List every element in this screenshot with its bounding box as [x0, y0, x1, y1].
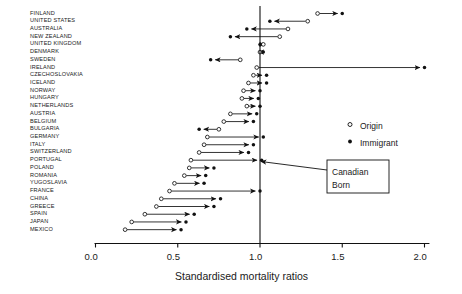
category-label: YUGOSLAVIA	[30, 180, 67, 186]
category-label: BULGARIA	[30, 126, 60, 132]
x-tick-label-2: 1.0	[249, 251, 262, 262]
origin-marker	[217, 127, 221, 131]
category-label: NETHERLANDS	[30, 103, 73, 109]
data-row	[155, 205, 216, 209]
category-label: BELGIUM	[30, 119, 56, 125]
immigrant-marker	[212, 166, 216, 170]
immigrant-marker	[268, 19, 272, 23]
origin-marker	[255, 66, 259, 70]
category-label: SPAIN	[30, 211, 47, 217]
data-row	[202, 143, 255, 147]
immigrant-marker	[209, 58, 213, 62]
origin-marker	[189, 158, 193, 162]
category-label: UNITED KINGDOM	[30, 41, 81, 47]
data-row	[130, 220, 188, 224]
category-label: NEW ZEALAND	[30, 34, 72, 40]
immigrant-marker	[247, 151, 251, 155]
data-row	[173, 181, 206, 185]
data-row	[245, 27, 290, 31]
x-tick-label-4: 2.0	[414, 251, 427, 262]
origin-marker	[206, 135, 210, 139]
origin-marker	[182, 174, 186, 178]
origin-marker	[123, 228, 127, 232]
origin-marker	[229, 112, 233, 116]
immigrant-marker	[255, 112, 259, 116]
origin-marker	[245, 104, 249, 108]
data-row	[247, 81, 269, 85]
category-label: SWITZERLAND	[30, 149, 72, 155]
x-tick-label-3: 1.5	[331, 251, 344, 262]
category-label: MEXICO	[30, 227, 53, 233]
category-label: ROMANIA	[30, 173, 57, 179]
annotation-line-2: Born	[332, 180, 350, 190]
annotation-layer	[261, 123, 389, 194]
data-row	[209, 58, 242, 62]
data-row	[197, 151, 250, 155]
x-axis-title: Standardised mortality ratios	[175, 270, 308, 282]
category-label: CZECHOSLOVAKIA	[30, 72, 83, 78]
immigrant-marker	[197, 128, 201, 132]
immigrant-marker	[265, 81, 269, 85]
category-label: GREECE	[30, 204, 55, 210]
origin-marker	[187, 166, 191, 170]
origin-marker	[143, 212, 147, 216]
data-row	[245, 104, 262, 108]
origin-marker	[168, 189, 172, 193]
category-label: IRELAND	[30, 65, 55, 71]
origin-marker	[261, 43, 265, 47]
origin-marker	[159, 197, 163, 201]
category-label: SWEDEN	[30, 57, 55, 63]
data-row	[197, 127, 220, 131]
category-label: POLAND	[30, 165, 54, 171]
immigrant-marker	[202, 182, 206, 186]
origin-marker	[286, 27, 290, 31]
category-label: HUNGARY	[30, 95, 59, 101]
immigrant-marker	[423, 66, 427, 70]
data-row	[187, 166, 215, 170]
data-row	[222, 120, 255, 124]
category-label: CHINA	[30, 196, 48, 202]
category-label: AUSTRIA	[30, 111, 55, 117]
immigrant-marker	[229, 35, 233, 39]
data-row	[229, 112, 259, 116]
category-label: NORWAY	[30, 88, 55, 94]
origin-marker	[252, 73, 256, 77]
data-row	[123, 228, 183, 232]
legend-label-immigrant: Immigrant	[360, 138, 398, 148]
origin-marker	[197, 151, 201, 155]
immigrant-marker	[192, 212, 196, 216]
data-row	[258, 50, 265, 54]
origin-marker	[242, 89, 246, 93]
immigrant-marker	[252, 143, 256, 147]
origin-marker	[155, 205, 159, 209]
origin-marker	[240, 97, 244, 101]
category-label: PORTUGAL	[30, 157, 62, 163]
data-row	[159, 197, 222, 201]
legend-marker-origin	[348, 123, 352, 127]
data-row	[316, 12, 344, 16]
origin-marker	[316, 12, 320, 16]
origin-marker	[222, 120, 226, 124]
origin-marker	[306, 19, 310, 23]
immigrant-marker	[219, 197, 223, 201]
origin-marker	[202, 143, 206, 147]
origin-marker	[130, 220, 134, 224]
origin-marker	[278, 35, 282, 39]
data-row	[189, 158, 263, 162]
category-label: FINLAND	[30, 11, 55, 17]
category-label: JAPAN	[30, 219, 48, 225]
category-label: ICELAND	[30, 80, 55, 86]
immigrant-marker	[245, 27, 249, 31]
data-row	[258, 43, 265, 47]
data-row	[206, 135, 266, 139]
origin-marker	[247, 81, 251, 85]
category-label: AUSTRALIA	[30, 26, 62, 32]
category-label: DENMARK	[30, 49, 59, 55]
data-row	[229, 35, 282, 39]
immigrant-marker	[179, 228, 183, 232]
immigrant-marker	[252, 120, 256, 124]
data-row	[168, 189, 262, 193]
annotation-leader-line	[261, 162, 327, 171]
x-tick-label-0: 0.0	[85, 251, 98, 262]
immigrant-marker	[184, 220, 188, 224]
